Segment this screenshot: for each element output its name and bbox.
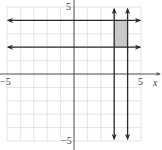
coordinate-plane (0, 0, 162, 150)
x-axis-name: x (153, 78, 157, 88)
y-max-label: 5 (66, 2, 71, 12)
x-min-label: −5 (0, 77, 11, 87)
x-max-label: 5 (138, 77, 143, 87)
y-min-label: −5 (61, 136, 72, 146)
shaded-region (114, 20, 127, 47)
